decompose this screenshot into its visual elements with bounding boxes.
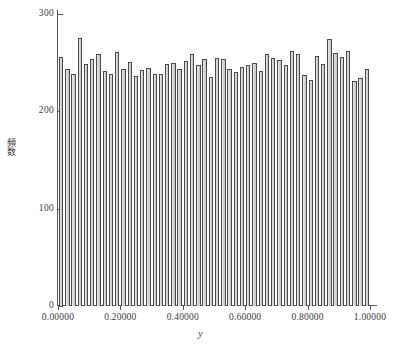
histogram-bar xyxy=(96,54,100,306)
x-tick-mark xyxy=(370,306,371,310)
histogram-bar xyxy=(271,58,275,306)
histogram-bar xyxy=(103,71,107,306)
histogram-bar xyxy=(284,65,288,306)
histogram-bar xyxy=(327,39,331,306)
x-tick-mark xyxy=(183,306,184,310)
plot-area xyxy=(58,14,370,306)
x-tick-mark xyxy=(58,306,59,310)
x-tick-mark xyxy=(120,306,121,310)
x-tick-label: 0.00000 xyxy=(42,312,74,322)
histogram-bar xyxy=(140,70,144,306)
histogram-bar xyxy=(277,60,281,306)
histogram-bar xyxy=(240,67,244,306)
x-tick-mark xyxy=(308,306,309,310)
histogram-bar xyxy=(90,59,94,306)
x-tick-label: 0.60000 xyxy=(229,312,261,322)
histogram-bar xyxy=(352,81,356,306)
x-tick-label: 0.80000 xyxy=(291,312,323,322)
histogram-bar xyxy=(121,69,125,306)
histogram-bar xyxy=(190,54,194,306)
histogram-bar xyxy=(65,69,69,306)
histogram-bar xyxy=(146,68,150,306)
histogram-bar xyxy=(333,53,337,306)
histogram-bar xyxy=(358,78,362,306)
histogram-bar xyxy=(346,51,350,306)
histogram-bar xyxy=(115,52,119,306)
histogram-bar xyxy=(128,62,132,306)
histogram-bar xyxy=(134,76,138,306)
x-tick-label: 0.20000 xyxy=(104,312,136,322)
histogram-bar xyxy=(302,75,306,306)
histogram-figure: 頻数 0100200300 0.000000.200000.400000.600… xyxy=(0,0,401,347)
x-tick-mark xyxy=(245,306,246,310)
histogram-bar xyxy=(177,69,181,306)
histogram-bar xyxy=(265,54,269,306)
histogram-bar xyxy=(196,65,200,306)
histogram-bar xyxy=(227,69,231,306)
histogram-bar xyxy=(321,64,325,306)
histogram-bar xyxy=(209,77,213,306)
y-tick-label: 300 xyxy=(39,8,54,18)
histogram-bar xyxy=(315,56,319,306)
y-axis-title: 頻数 xyxy=(2,138,16,156)
histogram-bar xyxy=(290,51,294,306)
y-tick-label: 100 xyxy=(39,203,54,213)
histogram-bar xyxy=(296,54,300,306)
x-tick-label: 1.00000 xyxy=(354,312,386,322)
histogram-bar xyxy=(165,64,169,306)
histogram-bar xyxy=(202,59,206,306)
histogram-bar xyxy=(234,72,238,306)
histogram-bar xyxy=(171,63,175,306)
histogram-bar xyxy=(71,74,75,306)
histogram-bar xyxy=(221,59,225,306)
histogram-bar xyxy=(246,65,250,306)
histogram-bar xyxy=(78,38,82,306)
histogram-bar xyxy=(84,64,88,306)
histogram-bar xyxy=(365,69,369,306)
histogram-bar xyxy=(184,61,188,306)
histogram-bar xyxy=(59,57,63,306)
histogram-bar xyxy=(259,71,263,306)
histogram-bar xyxy=(340,57,344,306)
x-tick-label: 0.40000 xyxy=(167,312,199,322)
y-tick-label: 200 xyxy=(39,105,54,115)
histogram-bar xyxy=(252,63,256,306)
histogram-bar xyxy=(215,58,219,306)
y-tick-label: 0 xyxy=(49,300,54,310)
histogram-bar xyxy=(153,74,157,306)
x-axis-title: y xyxy=(0,328,401,339)
histogram-bar xyxy=(309,80,313,306)
histogram-bar xyxy=(159,74,163,306)
histogram-bar xyxy=(109,74,113,306)
